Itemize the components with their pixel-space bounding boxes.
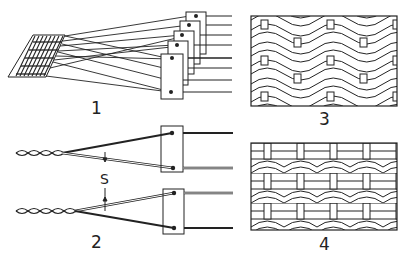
panel-1-harness-frames: 1 <box>8 12 232 118</box>
panel-4-weave-pattern: 4 <box>251 143 397 254</box>
twisted-warp-lower <box>16 209 76 214</box>
heddle-frames <box>161 12 206 99</box>
panel-4-label: 4 <box>319 234 330 254</box>
panel-3-weave-pattern: 3 <box>251 16 397 129</box>
twisted-warp-upper <box>16 151 64 156</box>
panel-2-label: 2 <box>91 232 102 252</box>
shed-label: S <box>100 171 109 187</box>
panel-1-label: 1 <box>91 98 102 118</box>
panel-3-label: 3 <box>319 109 330 129</box>
panel-2-shed: S 2 <box>16 126 233 252</box>
textile-diagram: 1 <box>0 0 407 265</box>
